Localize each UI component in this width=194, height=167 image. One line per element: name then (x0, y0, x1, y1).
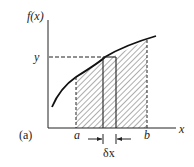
y-marker-label: y (33, 50, 40, 64)
y-axis-label: f(x) (27, 9, 44, 23)
x-axis-label: x (178, 122, 185, 136)
integral-diagram: f(x) y x a b δx (a) (0, 0, 194, 167)
upper-bound-label: b (144, 128, 150, 142)
shaded-area (76, 30, 147, 128)
panel-label: (a) (19, 128, 32, 142)
lower-bound-label: a (74, 128, 80, 142)
strip-width-arrows (88, 134, 131, 144)
strip-width-label: δx (103, 146, 115, 160)
